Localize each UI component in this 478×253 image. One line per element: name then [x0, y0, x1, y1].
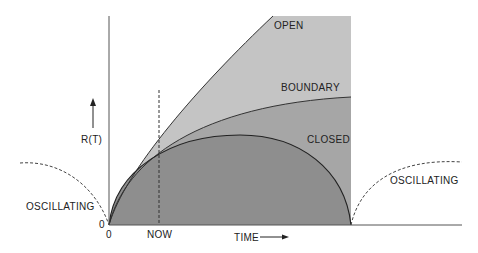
- oscillating-right-curve: [351, 162, 462, 225]
- oscillating-right-label: OSCILLATING: [390, 175, 459, 186]
- closed-label: CLOSED: [307, 134, 350, 145]
- y-arrow-icon: [90, 98, 96, 128]
- x-arrow-icon: [260, 235, 289, 240]
- oscillating-left-label: OSCILLATING: [26, 201, 95, 212]
- origin-x-label: 0: [106, 229, 112, 240]
- now-label: NOW: [147, 229, 172, 240]
- boundary-label: BOUNDARY: [281, 82, 340, 93]
- expansion-diagram: [0, 0, 478, 253]
- oscillating-left-curve: [20, 163, 109, 225]
- x-axis-label: TIME: [234, 232, 259, 243]
- y-axis-label: R(T): [81, 134, 102, 145]
- origin-y-label: 0: [99, 219, 105, 230]
- open-label: OPEN: [274, 20, 304, 31]
